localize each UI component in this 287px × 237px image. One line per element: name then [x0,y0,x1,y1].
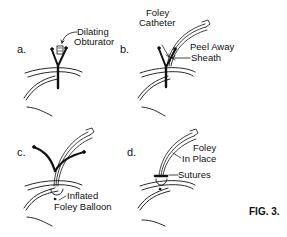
label-foley-d: Foley [193,143,216,153]
label-foley-balloon: Foley Balloon [54,202,112,212]
diagram-drawing [0,0,287,237]
label-sutures: Sutures [178,170,211,180]
panel-d-letter: d. [127,146,136,158]
panel-c-letter: c. [17,146,26,158]
panel-b-letter: b. [120,43,129,55]
panel-b-drawing [138,20,210,116]
label-sheath: Sheath [191,53,221,63]
label-obturator: Obturator [74,37,114,47]
label-catheter: Catheter [139,18,175,28]
label-in-place: In Place [182,154,216,164]
panel-a-letter: a. [17,43,26,55]
label-peel-away: Peel Away [190,42,234,52]
figure-caption: FIG. 3. [249,206,280,217]
label-inflated: Inflated [67,191,98,201]
